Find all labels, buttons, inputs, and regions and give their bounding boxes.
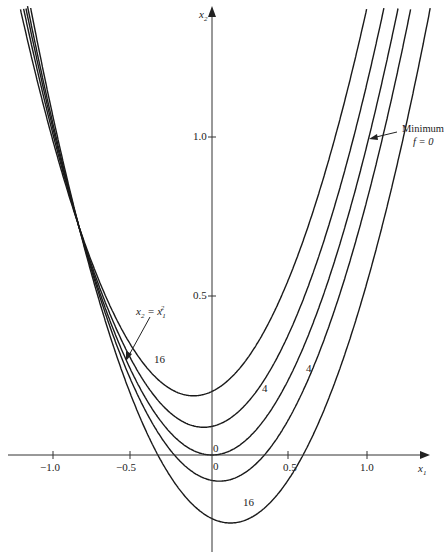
contour-curve <box>24 8 384 427</box>
contour-label-16-lower: 16 <box>243 497 254 508</box>
contour-label-16-upper: 16 <box>154 354 165 365</box>
minimum-arrow-head-icon <box>369 134 378 140</box>
x2-axis-label: x2 <box>199 9 207 23</box>
minimum-f-label: f = 0 <box>413 137 434 148</box>
parabola-arrow <box>128 317 150 357</box>
contour-label-0-lower: 0 <box>213 461 219 472</box>
x1-axis-label: x1 <box>418 463 426 477</box>
y-tick-label-1: 1.0 <box>193 131 207 142</box>
x1-axis-arrow-icon <box>420 451 430 459</box>
x2-axis-arrow-icon <box>208 6 216 17</box>
contour-curves <box>21 6 431 523</box>
x-tick-label-m1: −1.0 <box>40 462 60 473</box>
x-tick-label-05: 0.5 <box>283 462 297 473</box>
parabola-label: xx12 = x12 <box>136 305 164 320</box>
y-tick-label-05: 0.5 <box>193 290 207 301</box>
x-tick-label-m05: −0.5 <box>116 462 136 473</box>
minimum-label: Minimum <box>402 124 444 135</box>
contour-label-4-outer: 4 <box>306 363 312 374</box>
contour-label-4-inner: 4 <box>262 383 268 394</box>
contour-label-0-upper: 0 <box>213 443 219 454</box>
x-tick-label-1: 1.0 <box>360 462 374 473</box>
